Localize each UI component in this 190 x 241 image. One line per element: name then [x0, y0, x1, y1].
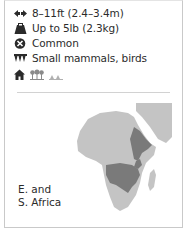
house-icon: [14, 65, 25, 84]
fact-length: 8–11ft (2.4–3.4m): [14, 6, 147, 21]
length-text: 8–11ft (2.4–3.4m): [32, 6, 124, 21]
weight-icon: [14, 23, 27, 34]
grassland-icon: [49, 65, 63, 84]
teeth-icon: [14, 53, 27, 64]
fact-weight: Up to 5lb (2.3kg): [14, 21, 147, 36]
status-circle-x-icon: [14, 38, 27, 49]
fact-status: Common: [14, 36, 147, 51]
woodland-icon: [30, 65, 44, 84]
arrows-horizontal-icon: [14, 8, 27, 19]
region-label: E. and S. Africa: [18, 183, 61, 209]
weight-text: Up to 5lb (2.3kg): [32, 21, 119, 36]
divider: [17, 92, 170, 93]
habitat-icons: [14, 67, 147, 81]
range-map: [76, 103, 172, 215]
fact-list: 8–11ft (2.4–3.4m) Up to 5lb (2.3kg) Comm…: [14, 6, 147, 81]
region-label-line1: E. and: [18, 183, 61, 196]
region-label-line2: S. Africa: [18, 196, 61, 209]
status-text: Common: [32, 36, 79, 51]
